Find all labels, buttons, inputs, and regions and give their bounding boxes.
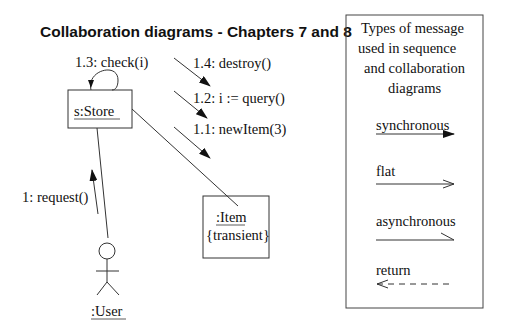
item-label: :Item	[216, 209, 247, 225]
message-1-2: 1.2: i := query()	[193, 90, 285, 107]
store-object: s:Store	[68, 90, 132, 128]
legend-box: Types of message used in sequence and co…	[346, 15, 483, 308]
legend-flat-label: flat	[376, 163, 395, 179]
flat-arrow-icon	[376, 180, 454, 188]
asynchronous-arrow-icon	[376, 233, 454, 240]
collaboration-diagram: s:Store 1.3: check(i) 1.4: destroy() 1.2…	[0, 0, 510, 326]
legend-return-label: return	[376, 262, 411, 278]
item-object: :Item {transient}	[203, 196, 270, 258]
message-1-1: 1.1: newItem(3)	[193, 121, 287, 138]
store-user-link	[97, 128, 108, 238]
message-1-3: 1.3: check(i)	[75, 54, 148, 71]
return-arrow-icon	[377, 280, 454, 288]
legend-asynchronous-label: asynchronous	[376, 213, 456, 229]
self-loop-icon	[88, 70, 118, 90]
item-constraint: {transient}	[206, 227, 270, 243]
legend-heading-line-2: used in sequence	[358, 40, 456, 56]
message-1: 1: request()	[22, 189, 89, 206]
legend-heading-line-3: and collaboration	[364, 60, 466, 76]
store-label: s:Store	[74, 103, 114, 119]
message-1-4: 1.4: destroy()	[193, 55, 271, 72]
legend-synchronous-label: synchronous	[376, 117, 450, 133]
user-label: :User	[91, 303, 123, 319]
legend-heading-line-1: Types of message	[361, 20, 464, 36]
arrow-1-icon	[92, 170, 98, 214]
user-actor-icon	[96, 243, 119, 295]
legend-heading-line-4: diagrams	[388, 80, 442, 96]
